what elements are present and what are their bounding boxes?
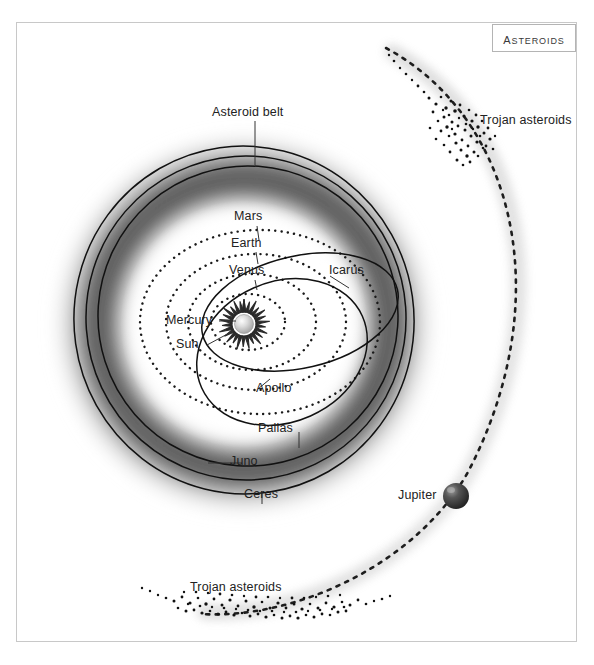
label-ceres: Ceres — [244, 487, 278, 501]
label-jupiter: Jupiter — [398, 488, 437, 502]
title-plate: Asteroids — [492, 24, 576, 52]
diagram-stage: Asteroids Asteroid belt Mars Earth Venus… — [0, 0, 594, 665]
jupiter-planet — [443, 483, 469, 509]
page-title: Asteroids — [503, 30, 564, 47]
label-trojan-asteroids-lower: Trojan asteroids — [190, 580, 282, 594]
label-asteroid-belt: Asteroid belt — [212, 105, 283, 119]
label-pallas: Pallas — [258, 421, 293, 435]
label-icarus: Icarus — [329, 263, 364, 277]
label-juno: Juno — [230, 454, 258, 468]
label-sun: Sun — [176, 337, 199, 351]
label-mercury: Mercury — [166, 313, 212, 327]
label-trojan-asteroids-upper: Trojan asteroids — [480, 113, 572, 127]
asteroids-illustration — [0, 0, 594, 665]
label-mars: Mars — [234, 209, 262, 223]
label-venus: Venus — [229, 263, 265, 277]
label-earth: Earth — [231, 236, 262, 250]
label-apollo: Apollo — [256, 381, 292, 395]
